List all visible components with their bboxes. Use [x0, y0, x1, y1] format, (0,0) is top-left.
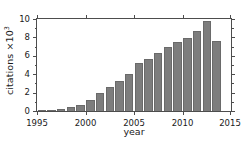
bar: [57, 109, 65, 111]
y-axis-minor-tick-right: [231, 47, 234, 48]
y-axis-minor-tick: [35, 65, 38, 66]
y-axis-minor-tick-right: [231, 102, 234, 103]
bar: [173, 42, 181, 111]
x-axis-tick: 1995: [37, 111, 38, 115]
x-axis-tick: 2000: [86, 111, 87, 115]
bar: [154, 53, 162, 111]
y-axis-tick-right: [231, 19, 235, 20]
x-axis-tick: 2005: [134, 111, 135, 115]
citations-bar-chart: citations ×103 0246810199520002005201020…: [0, 0, 244, 144]
y-axis-tick-right: [231, 37, 235, 38]
x-axis-label: year: [36, 126, 232, 137]
y-axis-tick: 8: [33, 37, 37, 38]
bar: [47, 110, 55, 111]
y-axis-tick-right: [231, 56, 235, 57]
x-axis-tick-top: [134, 15, 135, 19]
bar: [193, 31, 201, 111]
x-axis-tick: 2010: [183, 111, 184, 115]
bar: [67, 107, 75, 111]
y-axis-label-exponent: 3: [3, 25, 11, 29]
y-axis-tick-label: 4: [25, 69, 30, 79]
y-axis-minor-tick: [35, 47, 38, 48]
y-axis-minor-tick: [35, 28, 38, 29]
y-axis-tick-right: [231, 74, 235, 75]
y-axis-tick: 6: [33, 56, 37, 57]
y-axis-tick-label: 2: [25, 87, 30, 97]
y-axis-tick-label: 10: [19, 14, 30, 24]
plot-area: 024681019952000200520102015: [36, 18, 232, 112]
y-axis-minor-tick-right: [231, 28, 234, 29]
bar: [76, 105, 84, 111]
y-axis-tick-label: 8: [25, 32, 30, 42]
x-axis-tick: 2015: [230, 111, 231, 115]
bar: [106, 87, 114, 111]
x-axis-tick-top: [37, 15, 38, 19]
y-axis-minor-tick-right: [231, 83, 234, 84]
bar: [135, 63, 143, 111]
bar: [86, 100, 94, 111]
y-axis-minor-tick: [35, 83, 38, 84]
y-axis-tick: 4: [33, 74, 37, 75]
y-axis-minor-tick-right: [231, 65, 234, 66]
x-axis-tick-top: [183, 15, 184, 19]
bar: [164, 47, 172, 111]
y-axis-tick: 2: [33, 93, 37, 94]
y-axis-tick-right: [231, 93, 235, 94]
x-axis-tick-top: [86, 15, 87, 19]
y-axis-tick-label: 6: [25, 50, 30, 60]
bar: [96, 93, 104, 111]
y-axis-tick-right: [231, 111, 235, 112]
x-axis-tick-top: [230, 15, 231, 19]
bar: [144, 59, 152, 111]
bar: [183, 38, 191, 111]
y-axis-tick: 10: [33, 19, 37, 20]
bar: [115, 81, 123, 111]
y-axis-tick-label: 0: [25, 106, 30, 116]
y-axis-label: citations ×103: [0, 0, 20, 120]
bar: [212, 41, 220, 111]
bar: [125, 74, 133, 111]
bar: [203, 21, 211, 111]
y-axis-label-text: citations ×10: [5, 30, 16, 95]
bar-series: [37, 19, 231, 111]
y-axis-minor-tick: [35, 102, 38, 103]
bar: [38, 110, 46, 111]
